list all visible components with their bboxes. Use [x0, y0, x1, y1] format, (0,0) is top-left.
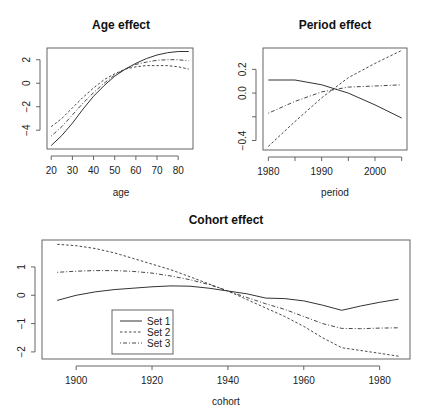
- cohort-y-tick-label: −1: [16, 317, 27, 329]
- age-x-tick-label: 40: [88, 165, 100, 176]
- age-series-set2: [51, 66, 189, 127]
- cohort-series-set3: [57, 271, 398, 329]
- cohort-y-tick-label: −2: [16, 346, 27, 358]
- age-x-tick-label: 70: [151, 165, 163, 176]
- period-effect-title: Period effect: [299, 18, 372, 32]
- age-series-set3: [51, 60, 189, 136]
- age-y-tick-label: 0: [21, 80, 32, 86]
- cohort-x-tick-label: 1940: [217, 375, 240, 386]
- legend-label-set2: Set 2: [147, 327, 171, 338]
- period-effect-panel: Period effect period 198019902000−0.40.0…: [237, 18, 407, 198]
- age-x-tick-label: 60: [130, 165, 142, 176]
- age-x-tick-label: 80: [173, 165, 185, 176]
- cohort-effect-panel: Cohort effect cohort Set 1 Set 2 Set 3 1…: [16, 213, 410, 407]
- age-y-tick-label: −2: [21, 101, 32, 113]
- age-plot-box: [47, 48, 193, 149]
- age-x-tick-label: 30: [67, 165, 79, 176]
- age-x-tick-label: 20: [46, 165, 58, 176]
- figure: Age effect age 20304050607080−4−202 Peri…: [0, 0, 437, 420]
- cohort-x-tick-label: 1980: [369, 375, 392, 386]
- cohort-x-tick-label: 1920: [141, 375, 164, 386]
- period-y-tick-label: 0.2: [237, 62, 248, 76]
- period-x-tick-label: 1990: [311, 166, 334, 177]
- age-effect-panel: Age effect age 20304050607080−4−202: [21, 18, 193, 198]
- cohort-x-tick-label: 1960: [293, 375, 316, 386]
- cohort-x-tick-label: 1900: [65, 375, 88, 386]
- cohort-series-set1: [57, 286, 398, 310]
- period-x-axis-label: period: [321, 187, 349, 198]
- period-y-tick-label: −0.4: [237, 130, 248, 150]
- legend-label-set3: Set 3: [147, 338, 171, 349]
- age-effect-title: Age effect: [92, 18, 150, 32]
- age-x-axis-label: age: [113, 187, 130, 198]
- cohort-y-tick-label: 0: [16, 292, 27, 298]
- cohort-y-tick-label: 1: [16, 264, 27, 270]
- legend-label-set1: Set 1: [147, 316, 171, 327]
- period-plot-box: [263, 48, 407, 150]
- cohort-plot-box: [42, 240, 410, 359]
- legend: Set 1 Set 2 Set 3: [112, 310, 173, 354]
- age-series-set1: [51, 52, 189, 146]
- age-x-tick-label: 50: [109, 165, 121, 176]
- cohort-series-set2: [57, 244, 398, 356]
- plot-canvas: Age effect age 20304050607080−4−202 Peri…: [0, 0, 437, 420]
- period-x-tick-label: 2000: [364, 166, 387, 177]
- period-series-set2: [268, 50, 401, 146]
- cohort-x-axis-label: cohort: [212, 396, 240, 407]
- period-y-tick-label: 0.0: [237, 86, 248, 100]
- age-y-tick-label: −4: [21, 124, 32, 136]
- period-x-tick-label: 1980: [257, 166, 280, 177]
- age-y-tick-label: 2: [21, 57, 32, 63]
- cohort-effect-title: Cohort effect: [189, 213, 264, 227]
